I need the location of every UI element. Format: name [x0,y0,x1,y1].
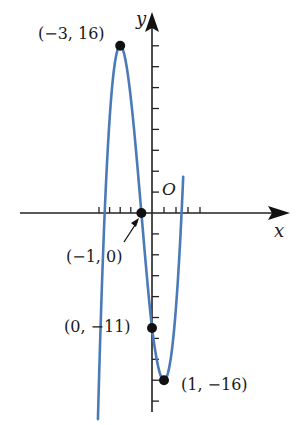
annotation-arrowhead-icon [131,218,139,227]
point-label-max: (−3, 16) [38,26,105,42]
point-label-min: (1, −16) [181,377,248,393]
x-ticks [99,207,200,213]
data-point-dot [115,41,125,51]
point-label-root: (−1, 0) [66,249,122,265]
data-point-dot [147,323,157,333]
x-axis-label: x [274,222,284,240]
point-label-y-intercept: (0, −11) [64,319,131,335]
cubic-curve [98,46,183,419]
data-point-dot [136,208,146,218]
origin-label: O [162,181,176,198]
cubic-graph [0,0,301,425]
y-axis-label: y [136,10,146,28]
data-point-dot [159,375,169,385]
